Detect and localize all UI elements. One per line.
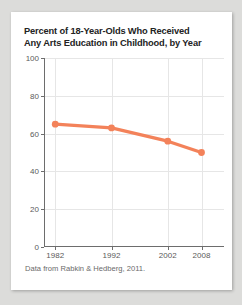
chart-title: Percent of 18-Year-Olds Who Received Any…	[24, 25, 224, 50]
x-tick-mark	[202, 247, 203, 250]
y-axis-label: 40	[30, 167, 39, 176]
series-polyline	[55, 124, 201, 152]
chart-source-caption: Data from Rabkin & Hedberg, 2011.	[25, 264, 145, 273]
y-tick-mark	[41, 247, 44, 248]
x-tick-mark	[168, 247, 169, 250]
plot-area: 020406080100 1982199220022008	[44, 58, 224, 247]
x-tick-mark	[55, 247, 56, 250]
chart-title-line-1: Percent of 18-Year-Olds Who Received	[24, 25, 224, 37]
y-axis-label: 80	[30, 91, 39, 100]
data-point-marker	[164, 138, 171, 145]
chart-card: Percent of 18-Year-Olds Who Received Any…	[11, 12, 232, 290]
y-axis-label: 0	[35, 243, 39, 252]
data-point-marker	[108, 125, 115, 132]
x-tick-mark	[112, 247, 113, 250]
data-point-marker	[198, 149, 205, 156]
y-axis-label: 20	[30, 205, 39, 214]
x-axis-label: 1982	[46, 251, 64, 260]
x-axis-label: 2002	[159, 251, 177, 260]
y-axis-label: 100	[26, 54, 39, 63]
chart-title-line-2: Any Arts Education in Childhood, by Year	[24, 37, 224, 49]
x-axis-label: 1992	[103, 251, 121, 260]
screenshot-canvas: Percent of 18-Year-Olds Who Received Any…	[0, 0, 242, 305]
y-axis-label: 60	[30, 129, 39, 138]
x-axis-label: 2008	[193, 251, 211, 260]
data-point-marker	[52, 121, 59, 128]
data-series-line	[44, 58, 224, 247]
